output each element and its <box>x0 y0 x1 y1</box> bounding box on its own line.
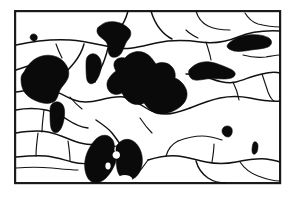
micrograph-canvas <box>0 0 293 199</box>
micrograph-figure <box>0 0 293 199</box>
void-hole <box>105 163 110 170</box>
dark-phase-speck-upper-left <box>30 34 37 41</box>
